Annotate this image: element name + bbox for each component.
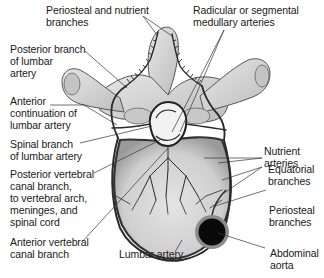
label-anterior-vertebral-canal-branch: Anterior vertebral canal branch — [10, 236, 89, 260]
label-spinal-branch-of-lumbar-artery: Spinal branch of lumbar artery — [10, 138, 82, 162]
vertebral-canal — [150, 102, 187, 146]
label-equatorial-branches: Equatorial branches — [268, 163, 314, 187]
label-radicular-or-segmental-medullary-arteries: Radicular or segmental medullary arterie… — [193, 4, 299, 28]
label-abdominal-aorta: Abdominal aorta — [270, 247, 319, 271]
lumbar-vertebra-arterial-diagram: Periosteal and nutrient branches Radicul… — [0, 0, 324, 278]
label-lumbar-artery: Lumbar artery — [119, 248, 183, 260]
label-posterior-branch-of-lumbar-artery: Posterior branch of lumbar artery — [10, 43, 85, 79]
left-articular-process — [124, 108, 152, 124]
label-posterior-vertebral-canal-branch: Posterior vertebral canal branch, to ver… — [10, 168, 94, 228]
label-periosteal-and-nutrient-branches: Periosteal and nutrient branches — [46, 4, 149, 28]
label-periosteal-branches: Periosteal branches — [269, 204, 315, 228]
label-anterior-continuation-of-lumbar-artery: Anterior continuation of lumbar artery — [10, 95, 77, 131]
